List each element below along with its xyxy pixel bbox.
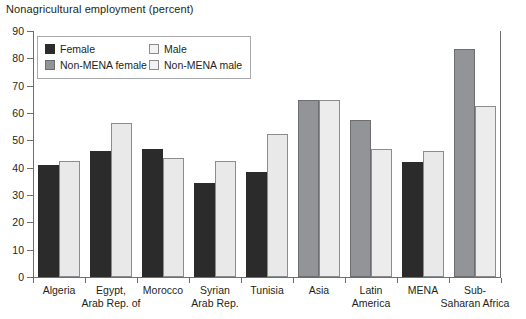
bar — [454, 49, 475, 277]
chart-legend: Female Male Non-MENA female Non-MENA mal… — [37, 36, 251, 79]
legend-swatch-non-mena-female-icon — [45, 60, 55, 70]
bar — [194, 183, 215, 277]
y-axis-label: 50 — [0, 134, 24, 146]
chart-title: Nonagricultural employment (percent) — [6, 3, 194, 15]
x-axis-tick — [85, 278, 86, 283]
y-axis-label: 20 — [0, 216, 24, 228]
legend-row: Female Male — [45, 41, 242, 57]
x-axis-tick — [293, 278, 294, 283]
bar — [267, 134, 288, 278]
legend-item-male: Male — [149, 43, 187, 55]
x-axis-tick — [33, 278, 34, 283]
legend-label-non-mena-female: Non-MENA female — [60, 59, 147, 71]
y-axis-label: 70 — [0, 80, 24, 92]
y-axis-label: 40 — [0, 162, 24, 174]
legend-item-non-mena-male: Non-MENA male — [149, 59, 242, 71]
legend-swatch-male-icon — [149, 44, 159, 54]
bar — [298, 100, 319, 277]
y-axis-label: 80 — [0, 52, 24, 64]
legend-item-female: Female — [45, 43, 149, 55]
x-axis-tick — [501, 278, 502, 283]
x-axis-category-line: Saharan Africa — [436, 297, 514, 310]
chart-container: Nonagricultural employment (percent) 010… — [0, 0, 526, 319]
legend-item-non-mena-female: Non-MENA female — [45, 59, 149, 71]
x-axis-line — [33, 277, 501, 278]
legend-label-male: Male — [164, 43, 187, 55]
bar — [371, 149, 392, 277]
y-axis-label: 90 — [0, 25, 24, 37]
x-axis-tick — [345, 278, 346, 283]
x-axis-category-line: America — [332, 297, 410, 310]
x-axis-category-line: Sub- — [436, 284, 514, 297]
bar — [475, 106, 496, 277]
legend-label-female: Female — [60, 43, 95, 55]
y-axis-label: 10 — [0, 244, 24, 256]
bar — [111, 123, 132, 277]
bar — [246, 172, 267, 277]
x-axis-tick — [397, 278, 398, 283]
legend-label-non-mena-male: Non-MENA male — [164, 59, 242, 71]
legend-swatch-female-icon — [45, 44, 55, 54]
legend-swatch-non-mena-male-icon — [149, 60, 159, 70]
bar — [350, 120, 371, 277]
x-axis-category-label: Sub-Saharan Africa — [436, 284, 514, 310]
bar — [90, 151, 111, 277]
bar — [215, 161, 236, 277]
bar — [38, 165, 59, 277]
x-axis-category-line: Arab Rep. of — [72, 297, 150, 310]
x-axis-tick — [449, 278, 450, 283]
y-axis-label: 60 — [0, 107, 24, 119]
bar — [142, 149, 163, 277]
bar — [319, 100, 340, 277]
y-axis-label: 0 — [0, 271, 24, 283]
bar — [59, 161, 80, 277]
x-axis-tick — [241, 278, 242, 283]
bar — [402, 162, 423, 277]
x-axis-tick — [189, 278, 190, 283]
x-axis-tick — [137, 278, 138, 283]
bar — [163, 158, 184, 277]
bar — [423, 151, 444, 277]
legend-row: Non-MENA female Non-MENA male — [45, 57, 242, 73]
y-axis-label: 30 — [0, 189, 24, 201]
x-axis-category-line: Arab Rep. — [176, 297, 254, 310]
